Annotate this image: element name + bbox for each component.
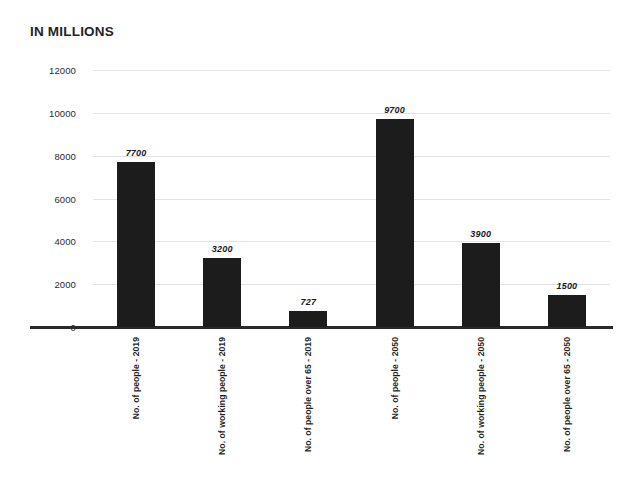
bar-value-label: 9700 <box>384 105 405 115</box>
x-axis-category-label: No. of people - 2050 <box>390 337 400 419</box>
bar-value-label: 3900 <box>470 229 491 239</box>
y-axis-tick-label: 6000 <box>54 193 76 204</box>
bar-value-label: 1500 <box>556 281 577 291</box>
bar[interactable] <box>117 162 155 327</box>
x-axis-category-labels: No. of people - 2019No. of working peopl… <box>93 333 610 493</box>
bar-group[interactable]: 3900 <box>438 70 524 327</box>
bar[interactable] <box>289 311 327 327</box>
y-axis-tick-label: 8000 <box>54 150 76 161</box>
x-axis-category-label: No. of working people - 2019 <box>217 337 227 455</box>
x-axis-category-label: No. of working people - 2050 <box>476 337 486 455</box>
bar-group[interactable]: 3200 <box>179 70 265 327</box>
x-axis-category-label: No. of people - 2019 <box>131 337 141 419</box>
bar-group[interactable]: 727 <box>265 70 351 327</box>
y-axis-tick-label: 2000 <box>54 279 76 290</box>
x-axis-label-slot: No. of people over 65 - 2019 <box>265 333 351 493</box>
y-axis-tick-label: 4000 <box>54 236 76 247</box>
x-axis-label-slot: No. of working people - 2050 <box>438 333 524 493</box>
x-axis-label-slot: No. of working people - 2019 <box>179 333 265 493</box>
y-axis-tick-label: 10000 <box>49 107 76 118</box>
bar[interactable] <box>462 243 500 327</box>
x-axis-label-slot: No. of people - 2019 <box>93 333 179 493</box>
bar-value-label: 7700 <box>126 148 147 158</box>
y-axis: 120001000080006000400020000 <box>0 70 76 327</box>
bar-group[interactable]: 9700 <box>352 70 438 327</box>
bar-value-label: 3200 <box>212 244 233 254</box>
y-axis-tick-label: 12000 <box>49 65 76 76</box>
chart-title: IN MILLIONS <box>30 24 114 39</box>
bar-group[interactable]: 7700 <box>93 70 179 327</box>
bar-chart: IN MILLIONS 120001000080006000400020000 … <box>0 0 630 500</box>
x-axis-category-label: No. of people over 65 - 2050 <box>562 337 572 452</box>
bar[interactable] <box>376 119 414 327</box>
x-axis-label-slot: No. of people over 65 - 2050 <box>524 333 610 493</box>
x-axis-label-slot: No. of people - 2050 <box>352 333 438 493</box>
x-axis-category-label: No. of people over 65 - 2019 <box>303 337 313 452</box>
bars-layer: 77003200727970039001500 <box>93 70 610 327</box>
bar[interactable] <box>548 295 586 327</box>
bar-value-label: 727 <box>301 297 317 307</box>
bar-group[interactable]: 1500 <box>524 70 610 327</box>
bar[interactable] <box>203 258 241 327</box>
